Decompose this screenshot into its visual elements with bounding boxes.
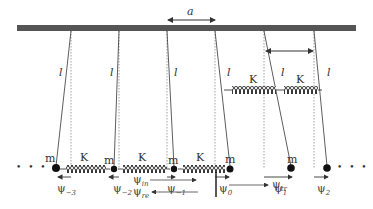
displacement-label: ψ2 bbox=[317, 183, 330, 197]
spring-label: K bbox=[138, 152, 146, 163]
displacement-label: ψ0 bbox=[219, 183, 232, 197]
ellipsis-left: • • • bbox=[16, 163, 48, 172]
pendulum-chain-diagram bbox=[0, 0, 373, 209]
mass-label: m bbox=[287, 154, 297, 165]
upper-springs bbox=[224, 86, 322, 94]
reflected-wave-label: ψre bbox=[133, 186, 149, 200]
mass-label: m bbox=[104, 155, 114, 166]
spacing-label: a bbox=[187, 6, 194, 17]
length-label: l bbox=[174, 67, 178, 78]
mass-label: m bbox=[225, 154, 235, 165]
length-label: l bbox=[59, 67, 63, 78]
displacement-label: ψ−3 bbox=[57, 183, 76, 197]
transmitted-wave-label: ψtr bbox=[272, 179, 287, 193]
length-label: l bbox=[110, 67, 114, 78]
spring-label: K bbox=[80, 152, 88, 163]
spring-label: K bbox=[249, 74, 257, 85]
mass-label: m bbox=[168, 155, 178, 166]
spring-label: K bbox=[296, 74, 304, 85]
support-bar bbox=[17, 25, 356, 31]
displacement-label: ψ−1 bbox=[167, 183, 186, 197]
spring-label: K bbox=[196, 152, 204, 163]
lower-springs bbox=[60, 165, 225, 173]
displacement-label: ψ−2 bbox=[113, 183, 132, 197]
ellipsis-right: • • • bbox=[337, 163, 369, 172]
length-label: l bbox=[327, 67, 331, 78]
length-label: l bbox=[281, 67, 285, 78]
length-label: l bbox=[227, 67, 231, 78]
